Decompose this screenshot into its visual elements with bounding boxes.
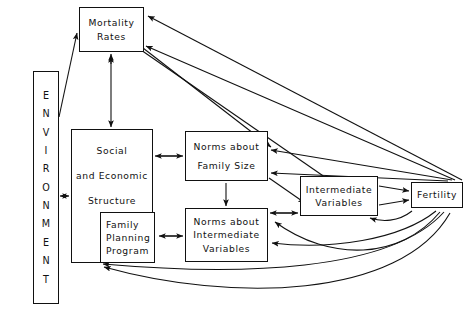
environment-letter-6: N: [42, 197, 49, 215]
family-planning-program-box[interactable]: Family Planning Program: [100, 212, 155, 263]
social-structure-line-2: Structure: [88, 194, 136, 207]
environment-letter-2: V: [43, 123, 50, 141]
norms-family-size-line-0: Norms about: [194, 140, 260, 153]
fertility-line-0: Fertility: [417, 188, 457, 201]
family-planning-line-1: Planning: [106, 231, 150, 244]
intermediate-variables-line-0: Intermediate: [306, 183, 372, 196]
mortality-rates-box[interactable]: Mortality Rates: [79, 7, 144, 52]
environment-letter-1: N: [42, 105, 49, 123]
norms-family-size-line-1: Family Size: [198, 159, 256, 172]
edge-intermediate-to-fertility-lower: [379, 200, 409, 205]
environment-box[interactable]: E N V I R O N M E N T: [33, 71, 59, 304]
environment-letter-3: I: [45, 142, 48, 160]
edge-intermediate-to-fertility-upper: [379, 186, 409, 191]
intermediate-variables-box[interactable]: Intermediate Variables: [300, 176, 378, 216]
edge-environment-to-mortality: [59, 33, 77, 117]
environment-letter-7: M: [42, 215, 50, 233]
family-planning-line-2: Program: [106, 244, 149, 257]
environment-letter-10: T: [43, 270, 49, 288]
diagram-canvas: E N V I R O N M E N T Mortality Rates So…: [0, 0, 476, 331]
social-structure-line-0: Social: [97, 144, 128, 157]
edge-fertility-to-intermediate-long-curve: [275, 212, 440, 250]
norms-about-intermediate-variables-box[interactable]: Norms about Intermediate Variables: [185, 208, 268, 262]
environment-letter-4: R: [43, 160, 50, 178]
norms-about-family-size-box[interactable]: Norms about Family Size: [185, 131, 268, 181]
intermediate-variables-line-1: Variables: [315, 196, 362, 209]
norms-intermediate-line-2: Variables: [203, 242, 250, 255]
family-planning-line-0: Family: [106, 218, 139, 231]
edge-fertility-to-norms-interm-curve: [272, 211, 436, 245]
environment-letter-8: E: [43, 233, 49, 251]
fertility-box[interactable]: Fertility: [411, 182, 463, 208]
norms-intermediate-line-0: Norms about: [194, 215, 260, 228]
mortality-rates-line-0: Mortality: [88, 16, 134, 29]
mortality-rates-line-1: Rates: [97, 30, 126, 43]
environment-letter-0: E: [43, 86, 49, 104]
edge-fertility-to-social-curve: [104, 213, 450, 288]
environment-letter-9: N: [42, 252, 49, 270]
social-structure-line-1: and Economic: [76, 169, 148, 182]
environment-letter-5: O: [42, 178, 50, 196]
norms-intermediate-line-1: Intermediate: [193, 228, 259, 241]
